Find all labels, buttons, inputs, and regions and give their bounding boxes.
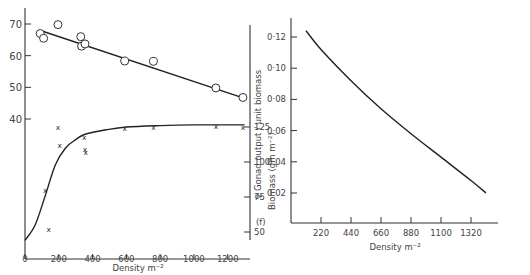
left-y-tick-label: 40 <box>9 114 22 125</box>
gonad-y-tick-label: 0·02 <box>267 188 286 198</box>
gonad-x-axis-label: Density m⁻² <box>369 242 420 252</box>
circle-point <box>54 21 62 29</box>
left-x-tick-label: 1200 <box>217 254 239 264</box>
circle-point <box>149 57 157 65</box>
left-x-tick-label: 400 <box>84 254 100 264</box>
right-y-tick-label: 50 <box>254 227 265 237</box>
cross-point: x <box>56 123 61 132</box>
left-x-tick-label: 1000 <box>183 254 205 264</box>
panel-label: (f) <box>256 217 266 227</box>
cross-point: x <box>241 123 246 132</box>
left-y-tick-label: 60 <box>9 51 22 62</box>
cross-point: x <box>57 141 62 150</box>
gonad-x-tick-label: 1320 <box>460 228 482 238</box>
cross-point: x <box>43 186 48 195</box>
left-x-tick-label: 200 <box>51 254 67 264</box>
left-x-axis-label: Density m⁻² <box>112 263 163 273</box>
gonad-y-tick-label: 0·04 <box>267 157 286 167</box>
gonad-y-tick-label: 0·08 <box>267 94 286 104</box>
left-chart: 020040060080010001200 40506070 507510012… <box>9 8 277 273</box>
circle-point <box>40 34 48 42</box>
left-y-tick-label: 50 <box>9 82 22 93</box>
right-y-axis-label: Biomass (gm m⁻²) <box>267 132 277 210</box>
circle-point <box>121 57 129 65</box>
gonad-y-axis-label: ♀ Gonad output / unit biomass <box>253 69 263 200</box>
circle-point <box>212 84 220 92</box>
circle-point <box>239 93 247 101</box>
circle-point <box>81 40 89 48</box>
gonad-y-tick-label: 0·10 <box>267 63 286 73</box>
gonad-y-tick-label: 0·06 <box>267 126 286 136</box>
gonad-x-tick-label: 220 <box>313 228 329 238</box>
figure: 020040060080010001200 40506070 507510012… <box>0 0 530 275</box>
cross-point: x <box>214 122 219 131</box>
gonad-x-tick-label: 1100 <box>430 228 452 238</box>
gonad-x-tick-label: 880 <box>403 228 419 238</box>
circle-point <box>77 33 85 41</box>
left-y-tick-label: 70 <box>9 19 22 30</box>
cross-point: x <box>84 148 89 157</box>
cross-point: x <box>122 124 127 133</box>
cross-point: x <box>82 133 87 142</box>
gonad-y-tick-label: 0·12 <box>267 32 286 42</box>
left-x-tick-label: 0 <box>22 254 27 264</box>
cross-point: x <box>46 225 51 234</box>
gonad-output-curve <box>306 31 486 193</box>
cross-point: x <box>151 123 156 132</box>
gonad-x-tick-label: 660 <box>373 228 389 238</box>
right-chart: 22044066088011001320 0·020·040·060·080·1… <box>253 18 498 252</box>
gonad-x-tick-label: 440 <box>343 228 359 238</box>
